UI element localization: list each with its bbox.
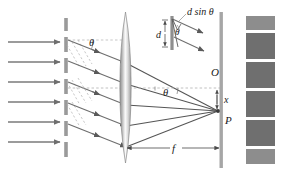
ray-arrow <box>92 92 100 95</box>
optics-diagram-canvas: θ θ d sin θ d θ O x P f <box>0 0 281 177</box>
ray-arrow <box>92 134 100 137</box>
ray-arrow <box>92 50 100 53</box>
wavefront <box>78 78 92 101</box>
offset-label-x: x <box>223 94 229 105</box>
focus-point-marker <box>216 109 220 113</box>
ray-arrow <box>92 113 100 116</box>
ray-arrow <box>92 71 100 74</box>
slit-geometry-inset <box>162 14 204 51</box>
interference-fringe-pattern <box>246 16 275 164</box>
inset-label-leader <box>179 14 186 21</box>
converging-lens <box>120 12 131 163</box>
diffraction-grating-figure: θ θ d sin θ d θ O x P f <box>0 0 281 177</box>
fringe-band <box>246 16 275 30</box>
inset-ray-lower <box>174 37 204 51</box>
slit-spacing-label: d <box>156 29 162 40</box>
image-point-label: P <box>224 114 232 126</box>
diffracted-ray-midpoint-arrows <box>92 50 100 137</box>
fringe-band <box>246 62 275 88</box>
focal-plane-screen <box>220 12 223 168</box>
fringe-band <box>246 120 275 146</box>
converging-ray <box>126 63 218 111</box>
theta-arc-axis <box>177 88 178 94</box>
theta-label-inset: θ <box>175 27 180 37</box>
theta-label-grating: θ <box>89 37 94 48</box>
incident-plane-wave <box>8 42 60 142</box>
path-difference-label: d sin θ <box>187 6 214 17</box>
center-point-label: O <box>211 66 219 78</box>
wavefront <box>72 80 86 103</box>
theta-label-axis: θ <box>163 87 168 98</box>
fringe-band <box>246 91 275 117</box>
fringe-band <box>246 149 275 164</box>
converging-ray <box>126 111 218 126</box>
focal-length-label: f <box>172 142 177 154</box>
inset-d-measure <box>162 20 168 47</box>
converging-ray <box>126 105 218 111</box>
fringe-band <box>246 33 275 59</box>
wavefront <box>72 42 86 66</box>
converging-rays-to-focus <box>126 63 218 147</box>
